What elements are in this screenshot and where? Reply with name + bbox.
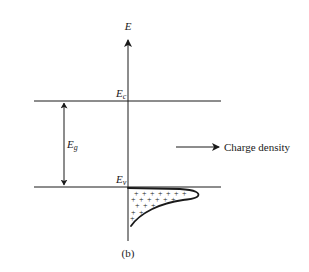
charge-density-label: Charge density xyxy=(224,141,291,153)
svg-text:+: + xyxy=(130,214,135,223)
svg-text:+: + xyxy=(143,201,148,210)
svg-text:+: + xyxy=(182,189,187,198)
panel-label: (b) xyxy=(122,247,135,260)
hole-distribution: + + + + + + + + + + + + + + + + + + + xyxy=(128,188,198,226)
energy-axis-label: E xyxy=(124,20,132,32)
svg-text:+: + xyxy=(171,195,176,204)
charge-density-legend: Charge density xyxy=(176,141,291,153)
svg-text:+: + xyxy=(155,195,160,204)
svg-text:+: + xyxy=(151,201,156,210)
svg-text:+: + xyxy=(163,195,168,204)
eg-label: Eg xyxy=(66,138,78,152)
ec-label: Ec xyxy=(115,87,127,101)
ev-label: Ev xyxy=(115,173,127,187)
band-gap-arrow: Eg xyxy=(64,103,78,185)
band-diagram: E Ec Ev Eg Charge density + + + + + + + … xyxy=(0,0,309,272)
svg-text:+: + xyxy=(139,208,144,217)
